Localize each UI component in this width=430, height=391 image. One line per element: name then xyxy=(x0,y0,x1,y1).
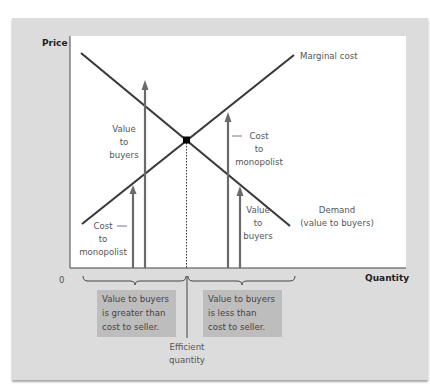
left-box-line3: cost to seller. xyxy=(102,322,159,332)
demand-label-line2: (value to buyers) xyxy=(300,218,374,228)
left-cost-label-line3: monopolist xyxy=(79,247,127,257)
right-box-line2: is less than xyxy=(208,308,257,318)
right-value-label-line3: buyers xyxy=(243,231,273,241)
right-box-line3: cost to seller. xyxy=(208,322,265,332)
right-brace xyxy=(188,276,295,285)
left-box-line2: is greater than xyxy=(102,308,165,318)
left-box-line1: Value to buyers xyxy=(102,294,169,304)
origin-label: 0 xyxy=(59,275,64,285)
left-cost-label-line1: Cost xyxy=(93,221,113,231)
left-brace xyxy=(83,276,186,285)
right-value-label-line2: to xyxy=(254,218,263,228)
x-axis-label: Quantity xyxy=(365,273,409,283)
efficient-quantity-label-line2: quantity xyxy=(169,355,205,365)
left-value-label-line1: Value xyxy=(112,124,136,134)
marginal-cost-label: Marginal cost xyxy=(300,51,358,61)
left-value-label-line2: to xyxy=(120,137,129,147)
left-value-label-line3: buyers xyxy=(109,150,139,160)
right-cost-label-line2: to xyxy=(255,144,264,154)
right-cost-label-line3: monopolist xyxy=(235,157,283,167)
left-cost-label-line2: to xyxy=(99,234,108,244)
right-value-label-line1: Value xyxy=(246,205,270,215)
right-box-line1: Value to buyers xyxy=(208,294,275,304)
equilibrium-point xyxy=(183,137,190,144)
monopoly-efficiency-diagram: Price Quantity 0 Marginal cost Demand (v… xyxy=(0,0,430,391)
y-axis-label: Price xyxy=(42,38,68,48)
right-cost-label-line1: Cost xyxy=(249,131,269,141)
demand-label-line1: Demand xyxy=(319,205,355,215)
efficient-quantity-label-line1: Efficient xyxy=(170,342,206,352)
